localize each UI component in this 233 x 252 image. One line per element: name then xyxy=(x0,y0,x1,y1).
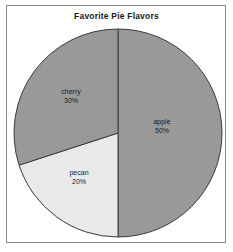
pie-chart-figure: Favorite Pie Flavors apple50%pecan20%che… xyxy=(0,0,233,252)
pie-graphic xyxy=(0,0,233,252)
slice-label-pecan: pecan20% xyxy=(69,168,88,186)
slice-label-name-cherry: cherry xyxy=(61,88,80,95)
slice-label-apple: apple50% xyxy=(153,117,170,135)
slice-label-percent-apple: 50% xyxy=(153,126,170,135)
slice-label-percent-cherry: 30% xyxy=(61,96,80,105)
slice-label-name-apple: apple xyxy=(153,118,170,125)
slice-label-cherry: cherry30% xyxy=(61,87,80,105)
slice-label-percent-pecan: 20% xyxy=(69,177,88,186)
slice-label-name-pecan: pecan xyxy=(69,169,88,176)
